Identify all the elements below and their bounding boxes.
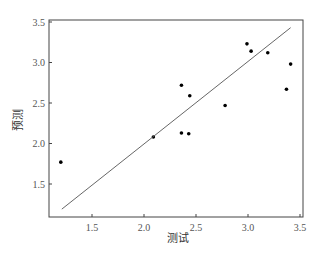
data-point [59,160,63,164]
scatter-chart: 1.52.02.53.03.5 1.52.02.53.03.5 测试 预测 [0,0,318,258]
x-tick-label: 3.0 [242,222,255,233]
data-point [187,132,191,136]
x-tick-label: 1.5 [86,222,99,233]
data-point [245,42,249,46]
data-point [180,83,184,87]
data-point [223,104,227,108]
data-point [289,62,293,66]
data-point [249,49,253,53]
x-tick-label: 3.5 [294,222,307,233]
x-tick-label: 2.0 [138,222,151,233]
x-tick-label: 2.5 [190,222,203,233]
y-axis-label: 预测 [12,109,25,131]
data-point [180,131,184,135]
y-tick-label: 3.0 [33,57,46,68]
regression-line [62,28,291,209]
y-tick-label: 2.0 [33,138,46,149]
data-point [188,94,192,98]
y-tick-label: 1.5 [33,179,46,190]
plot-area [49,20,303,217]
y-tick-label: 3.5 [33,17,46,28]
x-axis-label: 测试 [167,232,189,245]
data-point [285,87,289,91]
y-tick-label: 2.5 [33,98,46,109]
data-point [266,51,270,55]
